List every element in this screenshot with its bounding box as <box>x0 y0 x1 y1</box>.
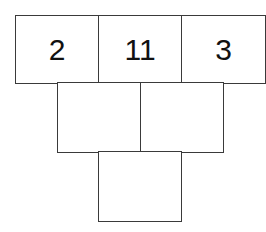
pyramid-cell-top-1: 2 <box>15 15 99 84</box>
pyramid-cell-middle-2[interactable] <box>140 82 224 153</box>
pyramid-cell-bottom-1[interactable] <box>98 151 182 222</box>
pyramid-cell-top-2: 11 <box>98 15 182 84</box>
pyramid-cell-middle-1[interactable] <box>57 82 141 153</box>
pyramid-cell-top-3: 3 <box>181 15 266 84</box>
